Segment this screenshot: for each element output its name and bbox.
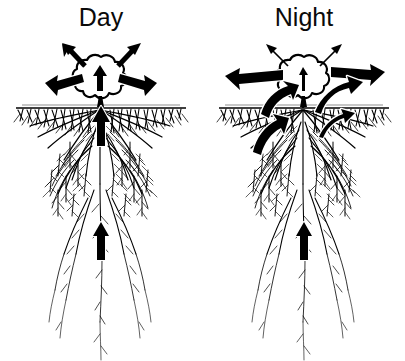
night-deep-roots	[252, 184, 354, 360]
panel-night-artwork	[203, 34, 405, 361]
night-surface-left-efflux-arrow	[225, 68, 283, 90]
day-transpiration-arrow-right	[118, 43, 141, 66]
panel-night-title: Night	[203, 2, 405, 32]
panel-day-title: Day	[0, 2, 202, 32]
day-deep-roots	[49, 184, 151, 360]
day-taproot-deep-arrow	[93, 222, 109, 260]
panel-day-artwork	[0, 34, 202, 361]
night-shallow-root-mat	[217, 109, 391, 160]
panel-night: Night	[203, 0, 405, 361]
day-shallow-right-uptake-arrow	[118, 74, 157, 96]
root-water-flux-figure: Day	[0, 0, 405, 361]
night-taproot-deep-arrow	[296, 222, 312, 260]
night-transpiration-arrow-right	[320, 44, 342, 66]
day-transpiration-arrow-left	[62, 43, 85, 67]
panel-day: Day	[0, 0, 202, 361]
night-transpiration-arrow-left	[266, 44, 288, 66]
